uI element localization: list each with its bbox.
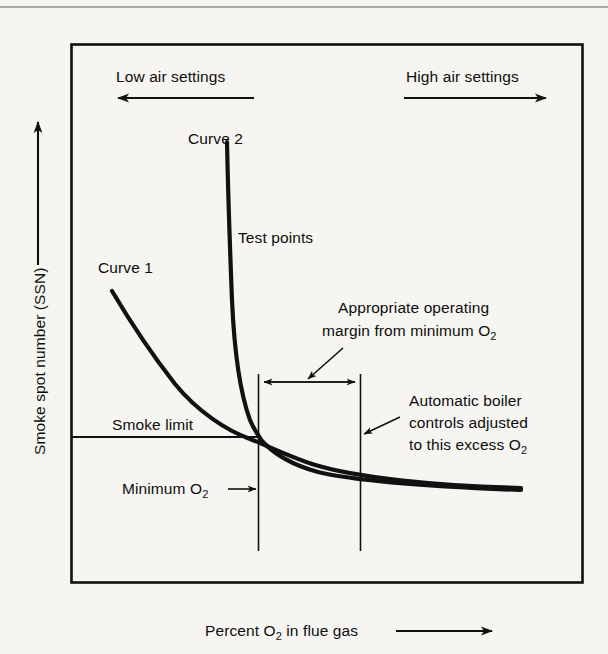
figure-container: Smoke spot number (SSN) Percent O2 in fl… <box>0 0 608 654</box>
test-points-label: Test points <box>238 229 313 246</box>
boiler-controls-label-line2: controls adjusted <box>409 414 528 431</box>
operating-margin-leader-arrow <box>308 348 343 379</box>
boiler-controls-subscript: 2 <box>521 444 527 456</box>
minimum-o2-text: Minimum O <box>122 480 202 497</box>
x-axis-label-tail: in flue gas <box>282 622 358 639</box>
operating-margin-label-line2: margin from minimum O2 <box>322 322 497 342</box>
boiler-controls-label-line3: to this excess O2 <box>409 436 527 456</box>
smoke-limit-label: Smoke limit <box>112 416 194 433</box>
minimum-o2-label: Minimum O2 <box>122 480 208 500</box>
high-air-settings-label: High air settings <box>406 68 519 85</box>
plot-border <box>72 45 583 583</box>
x-axis-label: Percent O2 in flue gas <box>205 622 358 642</box>
operating-margin-label-line1: Appropriate operating <box>338 299 489 316</box>
boiler-controls-leader-arrow <box>364 417 400 434</box>
y-axis-label: Smoke spot number (SSN) <box>31 267 48 455</box>
operating-margin-text: margin from minimum O <box>322 322 490 339</box>
boiler-controls-label-line1: Automatic boiler <box>409 392 522 409</box>
boiler-controls-text: to this excess O <box>409 436 521 453</box>
operating-margin-subscript: 2 <box>490 330 496 342</box>
x-axis-label-text: Percent O <box>205 622 276 639</box>
minimum-o2-subscript: 2 <box>202 488 208 500</box>
curve-2-label: Curve 2 <box>188 130 243 147</box>
low-air-settings-label: Low air settings <box>116 68 225 85</box>
chart-svg: Smoke spot number (SSN) Percent O2 in fl… <box>0 0 608 654</box>
curve-1-path <box>112 291 521 488</box>
curve-1-label: Curve 1 <box>98 259 153 276</box>
